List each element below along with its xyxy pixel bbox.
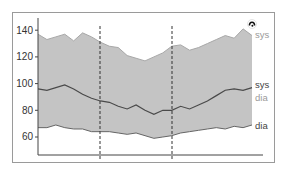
label-dia-mean: dia xyxy=(255,92,268,103)
series-labels: sys sys dia dia xyxy=(255,29,270,131)
y-tick-100: 100 xyxy=(16,78,33,89)
y-tick-60: 60 xyxy=(22,131,34,142)
label-sys-upper: sys xyxy=(255,29,270,40)
y-tick-120: 120 xyxy=(16,51,33,62)
range-band xyxy=(38,29,252,138)
range-band-area xyxy=(38,29,252,138)
y-tick-80: 80 xyxy=(22,105,34,116)
label-dia-lower: dia xyxy=(255,120,268,131)
label-sys-mean: sys xyxy=(255,79,270,90)
blood-pressure-chart: 140 120 100 80 60 sys sys dia dia xyxy=(0,0,285,174)
circle-logo-icon xyxy=(248,20,257,29)
y-tick-140: 140 xyxy=(16,25,33,36)
y-ticks: 140 120 100 80 60 xyxy=(16,25,38,143)
